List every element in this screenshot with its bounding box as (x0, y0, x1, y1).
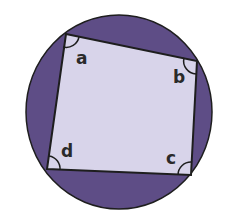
diagram-canvas: a b c d (0, 0, 228, 222)
angle-label-b: b (173, 67, 185, 87)
angle-label-d: d (61, 141, 73, 161)
angle-label-a: a (76, 48, 87, 68)
angle-label-c: c (166, 148, 176, 168)
